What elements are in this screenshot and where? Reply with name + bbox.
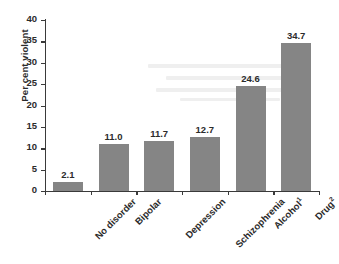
bar-value-label: 11.7: [135, 128, 183, 139]
y-tick-label: 35: [26, 34, 37, 45]
bar-value-label: 34.7: [272, 30, 320, 41]
bar-value-label: 24.6: [227, 73, 275, 84]
x-tick-mark: [319, 191, 320, 195]
bar-value-label: 11.0: [90, 131, 138, 142]
bar-value-label: 2.1: [44, 169, 92, 180]
category-label: Depression: [183, 196, 227, 240]
y-tick-label: 20: [26, 99, 37, 110]
x-tick-mark: [273, 191, 274, 195]
category-label: Bipolar: [132, 196, 163, 227]
x-tick-mark: [91, 191, 92, 195]
bar[interactable]: [236, 86, 266, 191]
y-tick-label: 25: [26, 77, 37, 88]
y-tick-label: 10: [26, 141, 37, 152]
x-tick-mark: [45, 191, 46, 195]
y-tick-label: 0: [32, 184, 37, 195]
x-tick-mark: [228, 191, 229, 195]
x-tick-mark: [136, 191, 137, 195]
plot-area: [45, 20, 319, 191]
bar[interactable]: [144, 141, 174, 191]
category-label: Drug2: [313, 196, 339, 222]
bar[interactable]: [99, 144, 129, 191]
bar[interactable]: [53, 182, 83, 191]
y-tick-label: 30: [26, 56, 37, 67]
bar[interactable]: [190, 137, 220, 191]
bar-value-label: 12.7: [181, 124, 229, 135]
y-tick-label: 40: [26, 13, 37, 24]
bar[interactable]: [281, 43, 311, 191]
x-tick-mark: [182, 191, 183, 195]
category-label: No disorder: [92, 196, 137, 241]
y-tick-label: 5: [32, 163, 37, 174]
y-tick-label: 15: [26, 120, 37, 131]
